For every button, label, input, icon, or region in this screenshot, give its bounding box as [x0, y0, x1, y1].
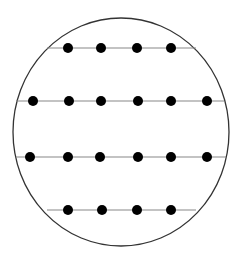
dot	[28, 96, 38, 106]
dot	[95, 152, 105, 162]
chord-row	[47, 205, 196, 215]
dot	[132, 43, 142, 53]
dot	[133, 96, 143, 106]
dot	[25, 152, 35, 162]
dot	[133, 152, 143, 162]
dot	[97, 205, 107, 215]
outer-circle	[13, 18, 229, 246]
dot	[166, 205, 176, 215]
dot	[166, 43, 176, 53]
dot	[63, 43, 73, 53]
chord-rows	[16, 43, 226, 215]
chord-row	[16, 152, 226, 162]
dot	[64, 96, 74, 106]
dot	[202, 152, 212, 162]
dot	[63, 205, 73, 215]
dot	[63, 152, 73, 162]
dot	[166, 96, 176, 106]
chord-dot-diagram	[0, 0, 238, 256]
chord-row	[16, 96, 224, 106]
dot	[202, 96, 212, 106]
dot	[166, 152, 176, 162]
chord-row	[47, 43, 196, 53]
dot	[96, 43, 106, 53]
dot	[132, 205, 142, 215]
dot	[96, 96, 106, 106]
